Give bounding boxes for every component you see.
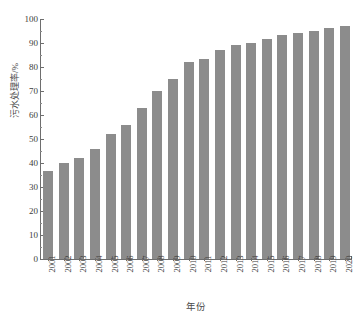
x-tick-slot: 2006 bbox=[121, 262, 131, 302]
x-tick-label: 2004 bbox=[95, 256, 104, 273]
y-tick-label: 100 bbox=[16, 15, 38, 24]
bar bbox=[121, 125, 131, 259]
x-tick-slot: 2013 bbox=[231, 262, 241, 302]
bar bbox=[43, 171, 53, 259]
bar bbox=[340, 26, 350, 259]
x-tick-label: 2001 bbox=[48, 256, 57, 273]
bar bbox=[90, 149, 100, 259]
bar bbox=[246, 43, 256, 259]
y-tick-label: 20 bbox=[16, 207, 38, 216]
x-tick-slot: 2012 bbox=[215, 262, 225, 302]
x-tick-slot: 2017 bbox=[293, 262, 303, 302]
x-tick-label: 2012 bbox=[220, 256, 229, 273]
bar bbox=[168, 79, 178, 259]
plot-area bbox=[40, 19, 352, 260]
x-tick-label: 2002 bbox=[64, 256, 73, 273]
bar-series bbox=[41, 19, 352, 259]
x-tick-label: 2014 bbox=[251, 256, 260, 273]
y-axis-tick-labels: 0102030405060708090100 bbox=[14, 0, 38, 323]
x-axis-tick-labels: 2001200220032004200520062007200820092010… bbox=[41, 262, 352, 302]
x-tick-slot: 2009 bbox=[168, 262, 178, 302]
y-tick-label: 0 bbox=[16, 255, 38, 264]
x-tick-label: 2013 bbox=[236, 256, 245, 273]
bar bbox=[137, 108, 147, 259]
x-tick-label: 2015 bbox=[267, 256, 276, 273]
x-tick-slot: 2015 bbox=[262, 262, 272, 302]
bar bbox=[262, 39, 272, 259]
x-tick-slot: 2001 bbox=[43, 262, 53, 302]
x-tick-slot: 2007 bbox=[137, 262, 147, 302]
x-tick-slot: 2010 bbox=[184, 262, 194, 302]
x-tick-slot: 2004 bbox=[90, 262, 100, 302]
x-tick-slot: 2014 bbox=[246, 262, 256, 302]
bar bbox=[152, 91, 162, 259]
x-tick-label: 2006 bbox=[126, 256, 135, 273]
x-tick-label: 2018 bbox=[314, 256, 323, 273]
bar bbox=[199, 59, 209, 259]
x-axis-label: 年份 bbox=[0, 299, 357, 313]
x-tick-label: 2009 bbox=[173, 256, 182, 273]
bar bbox=[59, 163, 69, 259]
bar bbox=[293, 33, 303, 259]
bar bbox=[324, 28, 334, 259]
x-tick-slot: 2018 bbox=[309, 262, 319, 302]
x-tick-slot: 2005 bbox=[106, 262, 116, 302]
y-tick-label: 40 bbox=[16, 159, 38, 168]
y-tick-label: 50 bbox=[16, 135, 38, 144]
x-tick-label: 2011 bbox=[204, 256, 213, 273]
x-tick-slot: 2016 bbox=[277, 262, 287, 302]
y-tick-label: 10 bbox=[16, 231, 38, 240]
x-tick-label: 2017 bbox=[298, 256, 307, 273]
x-tick-slot: 2008 bbox=[152, 262, 162, 302]
x-axis-label-text: 年份 bbox=[152, 302, 206, 312]
x-tick-slot: 2011 bbox=[199, 262, 209, 302]
x-tick-slot: 2002 bbox=[59, 262, 69, 302]
y-tick-label: 30 bbox=[16, 183, 38, 192]
y-tick-label: 80 bbox=[16, 63, 38, 72]
x-tick-label: 2005 bbox=[111, 256, 120, 273]
x-tick-label: 2010 bbox=[189, 256, 198, 273]
x-tick-label: 2007 bbox=[142, 256, 151, 273]
bar-chart: 污水处理率/% 0102030405060708090100 200120022… bbox=[0, 0, 357, 323]
x-tick-slot: 2019 bbox=[324, 262, 334, 302]
x-tick-label: 2019 bbox=[329, 256, 338, 273]
bar bbox=[184, 62, 194, 259]
bar bbox=[309, 31, 319, 259]
x-tick-label: 2016 bbox=[282, 256, 291, 273]
bar bbox=[231, 45, 241, 259]
bar bbox=[74, 158, 84, 259]
bar bbox=[277, 35, 287, 259]
y-tick-label: 70 bbox=[16, 87, 38, 96]
y-tick-label: 60 bbox=[16, 111, 38, 120]
y-tick-label: 90 bbox=[16, 39, 38, 48]
x-tick-slot: 2003 bbox=[74, 262, 84, 302]
x-tick-label: 2008 bbox=[157, 256, 166, 273]
bar bbox=[106, 134, 116, 259]
x-tick-slot: 2020 bbox=[340, 262, 350, 302]
y-tick-major bbox=[40, 259, 44, 260]
bar bbox=[215, 50, 225, 259]
x-tick-label: 2020 bbox=[345, 256, 354, 273]
x-tick-label: 2003 bbox=[79, 256, 88, 273]
